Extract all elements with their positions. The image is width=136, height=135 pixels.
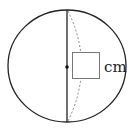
diagram: cm <box>0 0 136 135</box>
unit-label: cm <box>104 58 127 76</box>
answer-box[interactable] <box>73 53 100 79</box>
center-point <box>65 65 69 69</box>
